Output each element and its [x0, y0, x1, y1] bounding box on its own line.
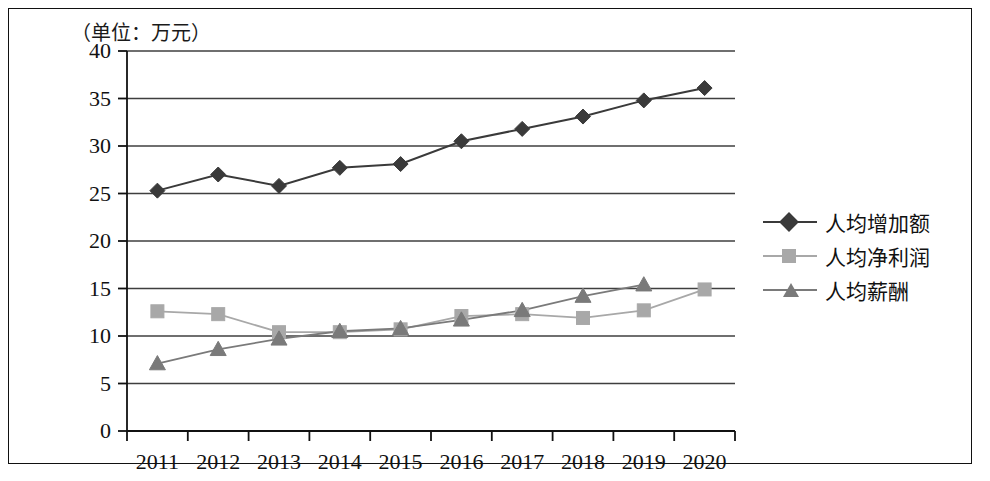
legend-square-icon — [782, 249, 796, 263]
legend-item-label: 人均薪酬 — [819, 275, 909, 305]
x-axis-tick-label: 2015 — [369, 451, 433, 473]
data-point-marker — [150, 183, 165, 198]
y-axis-tick-label: 30 — [69, 135, 111, 157]
legend-item-label: 人均净利润 — [819, 241, 930, 271]
x-axis-tick-label: 2017 — [490, 451, 554, 473]
data-point-marker — [576, 109, 591, 124]
y-axis-tick-label: 15 — [69, 278, 111, 300]
series-line — [157, 289, 704, 332]
legend-item[interactable]: 人均增加额 — [761, 205, 961, 239]
data-point-marker — [697, 81, 712, 96]
data-point-marker — [272, 178, 287, 193]
legend-item[interactable]: 人均薪酬 — [761, 273, 961, 307]
data-point-marker — [211, 167, 226, 182]
x-axis-tick-label: 2019 — [612, 451, 676, 473]
x-axis-tick-label: 2020 — [673, 451, 737, 473]
legend-triangle-icon — [783, 283, 799, 297]
data-point-marker — [636, 93, 651, 108]
data-point-marker — [577, 311, 590, 324]
data-point-marker — [212, 308, 225, 321]
chart-legend: 人均增加额人均净利润人均薪酬 — [761, 205, 961, 307]
data-point-marker — [515, 121, 530, 136]
x-axis-tick-label: 2014 — [308, 451, 372, 473]
legend-diamond-icon — [779, 212, 799, 232]
legend-item[interactable]: 人均净利润 — [761, 239, 961, 273]
data-point-marker — [637, 304, 650, 317]
legend-item-label: 人均增加额 — [819, 207, 930, 237]
x-axis-tick-label: 2013 — [247, 451, 311, 473]
series-line — [157, 88, 704, 191]
legend-key — [761, 210, 819, 234]
x-axis-tick-label: 2012 — [186, 451, 250, 473]
x-axis-tick-label: 2016 — [429, 451, 493, 473]
data-point-marker — [636, 277, 652, 291]
y-axis-tick-label: 20 — [69, 230, 111, 252]
y-axis-tick-label: 5 — [69, 373, 111, 395]
data-point-marker — [332, 160, 347, 175]
y-axis-tick-label: 40 — [69, 40, 111, 62]
y-axis-tick-label: 35 — [69, 88, 111, 110]
data-point-marker — [393, 157, 408, 172]
y-axis-tick-label: 25 — [69, 183, 111, 205]
legend-key — [761, 244, 819, 268]
data-point-marker — [151, 305, 164, 318]
x-axis-tick-label: 2018 — [551, 451, 615, 473]
chart-figure-frame: （单位：万元） 0510152025303540 201120122013201… — [8, 8, 972, 464]
y-axis-tick-label: 10 — [69, 325, 111, 347]
y-axis-tick-label: 0 — [69, 420, 111, 442]
x-axis-tick-label: 2011 — [125, 451, 189, 473]
legend-key — [761, 278, 819, 302]
data-point-marker — [698, 283, 711, 296]
